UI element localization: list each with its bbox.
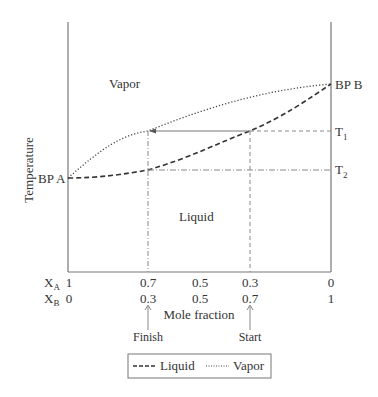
- xa-tick: 0.3: [242, 275, 258, 290]
- xb-tick: 0: [66, 291, 73, 306]
- t2-label: T2: [335, 162, 347, 180]
- xb-tick: 0.3: [140, 291, 156, 306]
- xb-tick: 0.7: [242, 291, 259, 306]
- legend-liquid-label: Liquid: [160, 358, 195, 373]
- xa-ticks: 1 0.7 0.5 0.3 0: [66, 275, 335, 290]
- phase-diagram: Temperature Vapor Liquid BP A BP B T1 T2…: [0, 0, 378, 397]
- start-label: Start: [239, 330, 262, 344]
- arrow-head-icon: [149, 129, 156, 134]
- legend: Liquid Vapor: [128, 354, 271, 378]
- vapor-region-label: Vapor: [109, 76, 141, 91]
- bp-a-label: BP A: [38, 171, 66, 186]
- t1-label: T1: [335, 124, 347, 142]
- xa-tick: 1: [66, 275, 73, 290]
- xb-ticks: 0 0.3 0.5 0.7 1: [66, 291, 335, 306]
- xb-tick: 0.5: [192, 291, 208, 306]
- xa-tick: 0.7: [140, 275, 157, 290]
- xb-tick: 1: [328, 291, 335, 306]
- xa-tick: 0.5: [192, 275, 208, 290]
- bp-b-label: BP B: [335, 77, 363, 92]
- x-axis-label: Mole fraction: [163, 307, 235, 322]
- xa-tick: 0: [328, 275, 335, 290]
- liquid-region-label: Liquid: [179, 209, 214, 224]
- finish-label: Finish: [133, 330, 163, 344]
- legend-vapor-label: Vapor: [233, 358, 265, 373]
- y-axis-label: Temperature: [21, 137, 36, 203]
- xa-label: XA: [44, 275, 60, 292]
- xb-label: XB: [44, 291, 59, 308]
